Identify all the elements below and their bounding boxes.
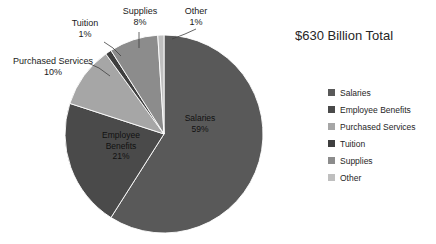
- legend-swatch-icon: [328, 140, 335, 147]
- callout-purchased-services: Purchased Services 10%: [4, 56, 102, 78]
- pie-chart-area: Purchased Services 10% Tuition 1% Suppli…: [0, 0, 436, 244]
- legend-item-salaries[interactable]: Salaries: [328, 84, 436, 101]
- legend-swatch-icon: [328, 123, 335, 130]
- callout-other: Other 1%: [173, 6, 219, 28]
- legend-swatch-icon: [328, 157, 335, 164]
- callout-purchased-services-value: 10%: [4, 67, 102, 78]
- callout-purchased-services-label: Purchased Services: [4, 56, 102, 67]
- legend-item-label: Employee Benefits: [340, 105, 411, 115]
- chart-title: $630 Billion Total: [258, 28, 430, 43]
- legend-swatch-icon: [328, 174, 335, 181]
- legend-swatch-icon: [328, 106, 335, 113]
- legend-item-tuition[interactable]: Tuition: [328, 135, 436, 152]
- callout-tuition-value: 1%: [62, 29, 108, 40]
- slice-label-employee-benefits-name-line2: Benefits: [91, 141, 151, 152]
- slice-label-employee-benefits-name-line1: Employee: [91, 130, 151, 141]
- callout-supplies: Supplies 8%: [114, 6, 166, 28]
- legend-item-employee-benefits[interactable]: Employee Benefits: [328, 101, 436, 118]
- legend-item-label: Supplies: [340, 156, 373, 166]
- callout-tuition-label: Tuition: [62, 18, 108, 29]
- callout-supplies-label: Supplies: [114, 6, 166, 17]
- legend-item-supplies[interactable]: Supplies: [328, 152, 436, 169]
- legend-item-purchased-services[interactable]: Purchased Services: [328, 118, 436, 135]
- legend-item-label: Other: [340, 173, 361, 183]
- callout-supplies-value: 8%: [114, 17, 166, 28]
- legend-item-other[interactable]: Other: [328, 169, 436, 186]
- slice-label-employee-benefits: Employee Benefits 21%: [91, 130, 151, 162]
- legend-item-label: Purchased Services: [340, 122, 416, 132]
- legend-item-label: Salaries: [340, 88, 371, 98]
- chart-legend: SalariesEmployee BenefitsPurchased Servi…: [328, 84, 436, 186]
- slice-label-employee-benefits-value: 21%: [91, 151, 151, 162]
- callout-tuition: Tuition 1%: [62, 18, 108, 40]
- legend-swatch-icon: [328, 89, 335, 96]
- slice-label-salaries-name: Salaries: [172, 113, 228, 124]
- slice-label-salaries: Salaries 59%: [172, 113, 228, 134]
- legend-item-label: Tuition: [340, 139, 365, 149]
- callout-other-label: Other: [173, 6, 219, 17]
- callout-other-value: 1%: [173, 17, 219, 28]
- slice-label-salaries-value: 59%: [172, 124, 228, 135]
